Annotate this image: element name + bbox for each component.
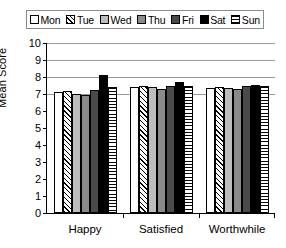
black-swatch xyxy=(200,15,209,24)
y-tick-label-10: 10 xyxy=(29,43,41,44)
bar-satisfied-wed[interactable] xyxy=(148,87,157,213)
bar-group-worthwhile: Worthwhile xyxy=(199,43,275,213)
x-tick-label-satisfied: Satisfied xyxy=(139,223,183,235)
white-swatch xyxy=(30,15,39,24)
legend-label: Tue xyxy=(77,15,94,25)
bar-worthwhile-sun[interactable] xyxy=(260,86,269,213)
bar-happy-sun[interactable] xyxy=(108,87,117,213)
legend-item-sun[interactable]: Sun xyxy=(231,15,260,25)
x-axis-end-tick xyxy=(274,213,275,218)
bar-satisfied-sun[interactable] xyxy=(184,86,193,214)
legend-label: Thu xyxy=(148,15,166,25)
legend-label: Wed xyxy=(111,15,132,25)
y-tick-label-7: 7 xyxy=(35,94,41,95)
legend-label: Mon xyxy=(41,15,61,25)
legend-item-tue[interactable]: Tue xyxy=(66,15,94,25)
x-tick-label-worthwhile: Worthwhile xyxy=(209,223,266,235)
bar-group-happy: Happy xyxy=(47,43,123,213)
chart-legend: MonTueWedThuFriSatSun xyxy=(26,10,264,29)
y-tick-label-2: 2 xyxy=(35,179,41,180)
bar-worthwhile-tue[interactable] xyxy=(215,87,224,213)
bar-satisfied-tue[interactable] xyxy=(139,86,148,214)
legend-item-mon[interactable]: Mon xyxy=(30,15,60,25)
bar-satisfied-mon[interactable] xyxy=(130,87,139,213)
bar-happy-mon[interactable] xyxy=(54,92,63,213)
y-tick-0 xyxy=(43,213,47,214)
bar-groups: HappySatisfiedWorthwhile xyxy=(47,43,275,213)
y-tick-label-8: 8 xyxy=(35,77,41,78)
bar-group-satisfied: Satisfied xyxy=(123,43,199,213)
x-tick-label-happy: Happy xyxy=(68,223,101,235)
legend-label: Sat xyxy=(210,15,225,25)
bar-happy-wed[interactable] xyxy=(72,94,81,213)
bar-worthwhile-fri[interactable] xyxy=(242,86,251,214)
legend-item-sat[interactable]: Sat xyxy=(200,15,226,25)
legend-item-thu[interactable]: Thu xyxy=(137,15,165,25)
diagonal-hatch-swatch xyxy=(66,15,75,24)
y-axis-title: Mean Score xyxy=(0,48,8,108)
bar-worthwhile-wed[interactable] xyxy=(224,88,233,213)
y-tick-label-0: 0 xyxy=(35,213,41,214)
bar-satisfied-thu[interactable] xyxy=(157,89,166,213)
bar-worthwhile-sat[interactable] xyxy=(251,85,260,213)
bar-satisfied-fri[interactable] xyxy=(166,86,175,214)
y-tick-label-1: 1 xyxy=(35,196,41,197)
y-tick-label-5: 5 xyxy=(35,128,41,129)
bar-worthwhile-thu[interactable] xyxy=(233,89,242,213)
bar-worthwhile-mon[interactable] xyxy=(206,88,215,213)
legend-label: Sun xyxy=(242,15,260,25)
dark-gray-swatch xyxy=(171,15,180,24)
x-axis-group-separator xyxy=(123,213,124,218)
medium-gray-swatch xyxy=(137,15,146,24)
bar-happy-thu[interactable] xyxy=(81,95,90,213)
legend-item-fri[interactable]: Fri xyxy=(171,15,193,25)
bar-happy-tue[interactable] xyxy=(63,91,72,213)
plot-area: 012345678910 HappySatisfiedWorthwhile xyxy=(46,43,275,214)
bar-chart: MonTueWedThuFriSatSun Mean Score 0123456… xyxy=(0,0,286,248)
y-tick-label-6: 6 xyxy=(35,111,41,112)
y-tick-label-3: 3 xyxy=(35,162,41,163)
x-axis-group-separator xyxy=(199,213,200,218)
bar-happy-fri[interactable] xyxy=(90,90,99,213)
legend-label: Fri xyxy=(182,15,194,25)
horizontal-stripe-swatch xyxy=(231,15,240,24)
legend-item-wed[interactable]: Wed xyxy=(100,15,131,25)
bar-happy-sat[interactable] xyxy=(99,75,108,213)
bar-satisfied-sat[interactable] xyxy=(175,82,184,213)
light-gray-swatch xyxy=(100,15,109,24)
y-tick-label-9: 9 xyxy=(35,60,41,61)
y-tick-label-4: 4 xyxy=(35,145,41,146)
